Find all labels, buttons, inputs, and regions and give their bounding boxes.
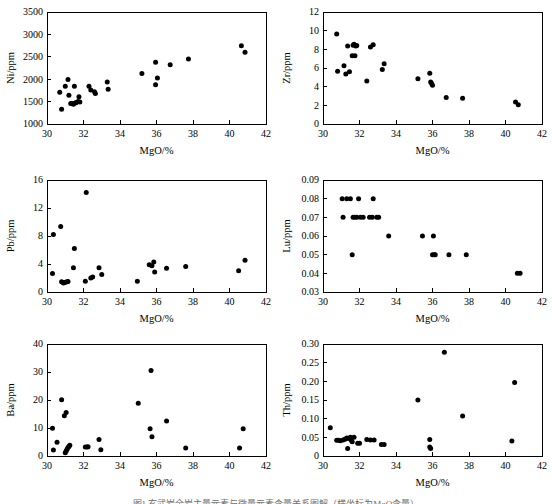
x-axis-title: MgO/% [416, 477, 450, 488]
x-tick-label: 32 [79, 460, 89, 471]
data-point [64, 410, 69, 415]
y-tick-label: 0.07 [302, 212, 320, 223]
data-point [72, 84, 77, 89]
x-tick-label: 40 [501, 460, 511, 471]
data-point [66, 93, 71, 98]
y-tick-label: 0.10 [302, 413, 320, 424]
y-tick-label: 0.20 [302, 376, 320, 387]
x-tick-label: 32 [355, 128, 365, 139]
data-point [76, 94, 81, 99]
y-tick-label: 0.15 [302, 394, 320, 405]
data-point [345, 446, 350, 451]
x-tick-label: 30 [318, 128, 328, 139]
data-point [149, 434, 154, 439]
data-point [71, 265, 76, 270]
data-point [151, 259, 156, 264]
data-point [65, 77, 70, 82]
y-axis-title: Th/ppm [281, 383, 292, 416]
x-tick-label: 36 [152, 460, 162, 471]
data-point [428, 446, 433, 451]
y-tick-label: 2 [314, 100, 319, 111]
data-point [444, 95, 449, 100]
figure-container: 10001500200025003000350030323436384042Mg… [0, 0, 552, 504]
data-point [328, 425, 333, 430]
x-tick-label: 30 [42, 460, 52, 471]
data-point [243, 50, 248, 55]
data-point [183, 445, 188, 450]
scatter-plot-th: 00.050.100.150.200.250.3030323436384042M… [276, 332, 552, 492]
data-point [382, 442, 387, 447]
data-point [335, 69, 340, 74]
data-point [105, 80, 110, 85]
data-point [59, 397, 64, 402]
data-point [239, 43, 244, 48]
x-axis-title: MgO/% [140, 477, 174, 488]
x-tick-label: 36 [152, 128, 162, 139]
x-tick-label: 32 [79, 128, 89, 139]
y-tick-label: 0.03 [302, 286, 320, 297]
y-tick-label: 1500 [23, 96, 43, 107]
data-point [99, 272, 104, 277]
x-tick-label: 30 [318, 296, 328, 307]
data-point [446, 252, 451, 257]
data-point [509, 439, 514, 444]
data-point [135, 279, 140, 284]
y-tick-label: 2000 [23, 74, 43, 85]
y-tick-label: 3000 [23, 29, 43, 40]
y-tick-label: 0.05 [302, 432, 320, 443]
y-axis-title: Ba/ppm [5, 383, 16, 416]
data-point [65, 279, 70, 284]
data-point [352, 435, 357, 440]
x-tick-label: 34 [115, 128, 125, 139]
x-tick-label: 42 [537, 296, 547, 307]
panel-lu: 0.030.040.050.060.070.080.09303234363840… [276, 168, 552, 328]
data-point [149, 368, 154, 373]
y-tick-label: 1000 [23, 118, 43, 129]
data-point [370, 215, 375, 220]
y-tick-label: 4 [314, 81, 319, 92]
y-axis-title: Lu/ppm [281, 219, 292, 252]
data-point [72, 246, 77, 251]
data-point [512, 380, 517, 385]
y-axis-title: Pb/ppm [5, 220, 16, 253]
data-point [55, 440, 60, 445]
data-point [148, 426, 153, 431]
panel-th: 00.050.100.150.200.250.3030323436384042M… [276, 332, 552, 492]
x-tick-label: 30 [318, 460, 328, 471]
y-tick-label: 0.04 [302, 268, 320, 279]
scatter-plot-ni: 10001500200025003000350030323436384042Mg… [0, 0, 276, 160]
x-tick-label: 36 [428, 460, 438, 471]
data-point [415, 76, 420, 81]
data-point [464, 252, 469, 257]
data-point [106, 87, 111, 92]
figure-caption: 图1 玄武岩全岩主量元素与微量元素含量关系图解（横坐标为MgO含量） [0, 494, 552, 504]
data-point [153, 82, 158, 87]
data-point [364, 79, 369, 84]
data-point [371, 196, 376, 201]
y-tick-label: 20 [33, 394, 43, 405]
x-tick-label: 36 [428, 296, 438, 307]
x-tick-label: 38 [464, 296, 474, 307]
x-axis-title: MgO/% [140, 145, 174, 156]
data-point [67, 443, 72, 448]
scatter-plot-ba: 01020304030323436384042MgO/%Ba/ppm [0, 332, 276, 492]
x-tick-label: 30 [42, 128, 52, 139]
data-point [98, 447, 103, 452]
x-axis-title: MgO/% [416, 145, 450, 156]
x-tick-label: 40 [225, 296, 235, 307]
panel-pb: 048121630323436384042MgO/%Pb/ppm [0, 168, 276, 328]
data-point [93, 91, 98, 96]
y-tick-label: 40 [33, 338, 43, 349]
data-point [386, 234, 391, 239]
y-tick-label: 0.09 [302, 174, 320, 185]
y-tick-label: 12 [309, 6, 319, 17]
data-point [153, 60, 158, 65]
data-point [361, 215, 366, 220]
x-tick-label: 40 [225, 128, 235, 139]
data-point [357, 441, 362, 446]
data-point [420, 234, 425, 239]
data-point [356, 196, 361, 201]
data-point [97, 437, 102, 442]
data-point [164, 266, 169, 271]
data-point [97, 265, 102, 270]
